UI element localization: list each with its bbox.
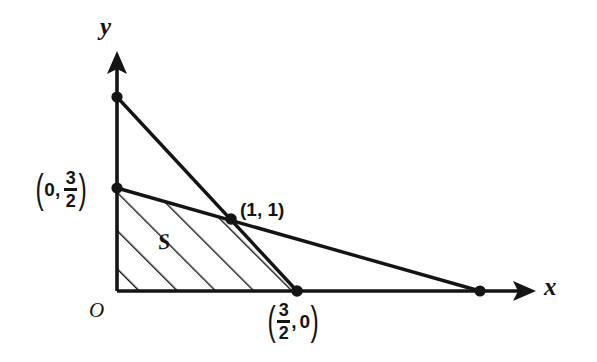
comma: ,	[55, 180, 63, 199]
fraction-three-halves: 3 2	[64, 169, 77, 210]
fraction-numerator: 3	[65, 169, 77, 187]
point-3-0	[474, 285, 485, 296]
point-label-three-halves-0: ( 3 2 , 0 )	[265, 301, 322, 342]
fraction-three-halves: 3 2	[277, 301, 290, 342]
fraction-denominator: 2	[278, 324, 290, 342]
region-label-s: S	[157, 230, 171, 253]
point-label-1-1: (1, 1)	[240, 200, 284, 219]
value-zero: 0	[300, 312, 311, 331]
value-zero: 0	[44, 180, 55, 199]
fraction-numerator: 3	[278, 301, 290, 319]
paren-close: )	[79, 173, 87, 206]
comma: ,	[291, 312, 299, 331]
paren-open: (	[268, 305, 276, 338]
paren-close: )	[311, 305, 319, 338]
point-0-three-halves	[111, 182, 122, 193]
fraction-denominator: 2	[65, 192, 77, 210]
x-axis-label: x	[544, 274, 557, 299]
point-1-1	[225, 213, 237, 225]
coordinate-diagram: y x O S (1, 1) ( 0 , 3 2 ) ( 3 2 , 0 )	[0, 0, 597, 362]
y-axis-label: y	[100, 14, 111, 39]
origin-label: O	[89, 300, 104, 321]
point-0-3	[111, 91, 122, 102]
paren-open: (	[36, 173, 44, 206]
point-three-halves-0	[291, 285, 303, 297]
point-label-0-three-halves: ( 0 , 3 2 )	[33, 169, 90, 210]
